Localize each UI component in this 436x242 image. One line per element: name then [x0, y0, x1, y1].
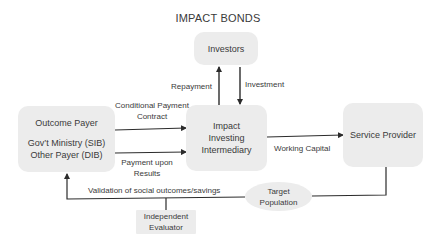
- target-population-node: Target Population: [245, 182, 312, 211]
- payment-upon-results-label: Payment upon Results: [112, 157, 182, 179]
- independent-evaluator-line-2: Evaluator: [149, 222, 183, 233]
- intermediary-label-line-3: Intermediary: [201, 144, 251, 156]
- investors-node: Investors: [194, 32, 258, 65]
- payment-upon-results-line-2: Results: [112, 168, 182, 179]
- independent-evaluator-node: Independent Evaluator: [136, 210, 196, 234]
- conditional-payment-line-2: Contract: [110, 111, 194, 122]
- independent-evaluator-line-1: Independent: [144, 211, 189, 222]
- working-capital-arrow: [267, 135, 343, 137]
- govt-ministry-label: Gov’t Ministry (SIB): [28, 137, 106, 149]
- service-to-population-line: [312, 167, 386, 196]
- conditional-payment-arrow: [115, 128, 186, 130]
- payment-upon-results-line-1: Payment upon: [112, 157, 182, 168]
- target-population-line-2: Population: [260, 197, 298, 208]
- payment-upon-results-arrow: [115, 152, 186, 153]
- intermediary-node: Impact Investing Intermediary: [186, 105, 267, 171]
- conditional-payment-label: Conditional Payment Contract: [110, 100, 194, 122]
- repayment-label: Repayment: [171, 81, 212, 92]
- working-capital-label: Working Capital: [274, 143, 330, 154]
- service-provider-label: Service Provider: [350, 129, 416, 141]
- validation-label: Validation of social outcomes/savings: [88, 185, 220, 196]
- investment-label: Investment: [245, 79, 284, 90]
- other-payer-label: Other Payer (DIB): [30, 149, 102, 161]
- investors-label: Investors: [208, 43, 245, 55]
- outcome-payer-label: Outcome Payer: [35, 117, 98, 129]
- target-population-line-1: Target: [267, 186, 289, 197]
- service-provider-node: Service Provider: [343, 103, 423, 167]
- outcome-payer-node: Outcome Payer Gov’t Ministry (SIB) Other…: [18, 106, 115, 172]
- intermediary-label-line-2: Investing: [208, 132, 244, 144]
- conditional-payment-line-1: Conditional Payment: [110, 100, 194, 111]
- intermediary-label-line-1: Impact: [213, 120, 240, 132]
